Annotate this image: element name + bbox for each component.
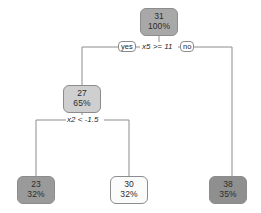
node-percent: 32% (27, 190, 44, 200)
no-text: no (183, 42, 191, 51)
split2-condition-label: x2 < -1.5 (66, 115, 99, 124)
node-percent: 35% (219, 190, 236, 200)
yes-text: yes (121, 42, 133, 51)
split1-no-label[interactable]: no (180, 41, 194, 52)
tree-leaf-23[interactable]: 23 32% (17, 176, 55, 204)
split1-condition-label: x5 >= 11 (141, 42, 174, 51)
decision-tree-diagram: 31 100% yes x5 >= 11 no 27 65% x2 < -1.5… (0, 0, 261, 213)
node-percent: 65% (73, 99, 90, 109)
tree-node-left[interactable]: 27 65% (63, 85, 101, 113)
tree-leaf-30[interactable]: 30 32% (110, 176, 148, 204)
split1-condition-text: x5 >= 11 (142, 42, 173, 51)
tree-leaf-38[interactable]: 38 35% (209, 176, 247, 204)
tree-node-root[interactable]: 31 100% (140, 8, 178, 36)
split1-yes-label[interactable]: yes (118, 41, 136, 52)
split2-condition-text: x2 < -1.5 (67, 115, 98, 124)
node-percent: 100% (148, 22, 170, 32)
node-percent: 32% (120, 190, 137, 200)
